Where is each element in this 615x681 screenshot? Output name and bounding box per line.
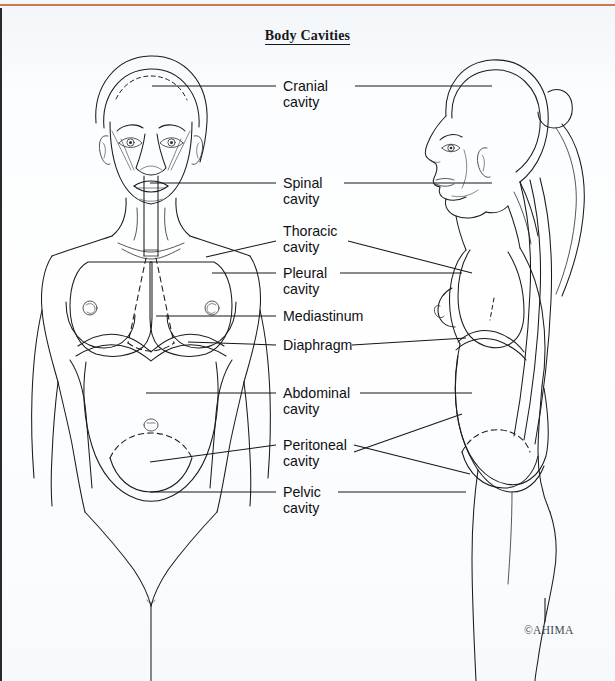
label-abdominal-line1: Abdominal — [283, 385, 350, 401]
copyright-credit: ©AHIMA — [524, 624, 574, 636]
label-pelvic: Pelvic cavity — [283, 485, 321, 516]
label-mediastinum-line1: Mediastinum — [283, 308, 363, 324]
label-abdominal-line2: cavity — [283, 401, 319, 417]
label-diaphragm-line1: Diaphragm — [283, 337, 352, 353]
label-peritoneal: Peritoneal cavity — [283, 438, 347, 469]
label-pelvic-line2: cavity — [283, 500, 319, 516]
label-spinal-line2: cavity — [283, 191, 319, 207]
label-thoracic-line1: Thoracic — [283, 223, 337, 239]
label-cranial: Cranial cavity — [283, 79, 328, 110]
label-thoracic: Thoracic cavity — [283, 224, 337, 255]
label-pleural-line2: cavity — [283, 281, 319, 297]
leader-diaphragm-left — [188, 342, 276, 345]
leader-peritoneal-right — [354, 445, 470, 474]
label-spinal: Spinal cavity — [283, 176, 322, 207]
label-peritoneal-line2: cavity — [283, 453, 319, 469]
lateral-figure-group — [425, 60, 584, 681]
label-cranial-line1: Cranial — [283, 78, 328, 94]
label-abdominal: Abdominal cavity — [283, 386, 350, 417]
label-thoracic-line2: cavity — [283, 239, 319, 255]
label-pleural-line1: Pleural — [283, 265, 327, 281]
label-mediastinum: Mediastinum — [283, 309, 363, 325]
label-cranial-line2: cavity — [283, 94, 319, 110]
anterior-figure-group — [32, 56, 271, 681]
label-peritoneal-line1: Peritoneal — [283, 437, 347, 453]
label-pleural: Pleural cavity — [283, 266, 327, 297]
label-diaphragm: Diaphragm — [283, 338, 352, 354]
leader-thoracic-right — [348, 241, 472, 273]
label-pelvic-line1: Pelvic — [283, 484, 321, 500]
leader-diaphragm-right — [352, 338, 466, 345]
label-spinal-line1: Spinal — [283, 175, 322, 191]
body-cavities-figure: Body Cavities — [0, 0, 615, 681]
leader-thoracic-left — [206, 241, 276, 257]
leader-peritoneal-right2 — [354, 414, 462, 452]
